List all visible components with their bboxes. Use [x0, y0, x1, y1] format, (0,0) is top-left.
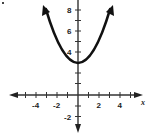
parabola-graph: -4 -2 2 4 x 8 6 4 -2: [0, 0, 149, 137]
y-tick-label: 4: [67, 48, 72, 57]
x-tick-label: 4: [118, 101, 123, 110]
x-axis-left-arrow-icon: [9, 92, 18, 98]
x-tick-label: -2: [53, 101, 61, 110]
x-tick-label: 2: [97, 101, 102, 110]
y-tick-label: 8: [67, 6, 72, 15]
x-axis-label: x: [140, 98, 145, 107]
x-tick-label: -4: [32, 101, 40, 110]
y-tick-label: -2: [64, 113, 72, 122]
y-axis-down-arrow-icon: [75, 124, 81, 133]
y-axis: 8 6 4 -2: [64, 0, 81, 133]
y-tick-label: 6: [67, 27, 72, 36]
x-axis: -4 -2 2 4 x: [9, 92, 145, 110]
cropped-mark: [2, 2, 4, 4]
